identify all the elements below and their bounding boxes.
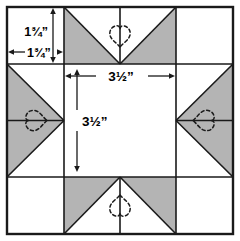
dimension-center-width-label: 3½” <box>108 69 134 84</box>
dimension-center-height-label: 3½” <box>82 114 108 129</box>
quilt-block-diagram: 1¾” 1¾” 3½” <box>0 0 240 241</box>
quilt-block-canvas: 1¾” 1¾” 3½” <box>0 0 240 241</box>
dimension-corner-height-label: 1¾” <box>24 25 48 39</box>
dimension-corner-width-label: 1¾” <box>27 46 51 60</box>
